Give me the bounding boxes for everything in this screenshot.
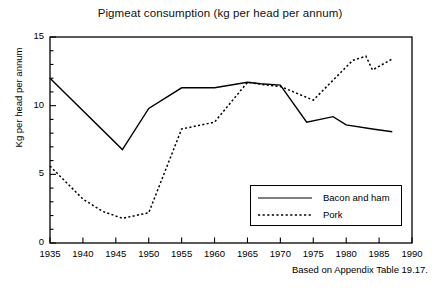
legend-solid-line-swatch bbox=[257, 193, 313, 203]
x-axis-tick-label: 1950 bbox=[132, 248, 166, 259]
x-axis-tick-label: 1990 bbox=[395, 248, 429, 259]
x-axis-tick-label: 1955 bbox=[165, 248, 199, 259]
legend-label-pork: Pork bbox=[323, 209, 343, 220]
x-axis-tick-label: 1965 bbox=[230, 248, 264, 259]
chart-legend: Bacon and ham Pork bbox=[250, 185, 402, 226]
x-axis-tick-label: 1980 bbox=[329, 248, 363, 259]
y-axis-tick-label: 5 bbox=[18, 167, 44, 178]
pigmeat-consumption-chart: Pigmeat consumption (kg per head per ann… bbox=[0, 0, 440, 293]
legend-label-bacon-and-ham: Bacon and ham bbox=[323, 192, 390, 203]
x-axis-tick-label: 1985 bbox=[362, 248, 396, 259]
legend-dotted-line-swatch bbox=[257, 210, 313, 220]
x-axis-tick-label: 1940 bbox=[66, 248, 100, 259]
legend-item-bacon-and-ham: Bacon and ham bbox=[257, 190, 390, 205]
y-axis-tick-label: 15 bbox=[18, 30, 44, 41]
source-note: Based on Appendix Table 19.17. bbox=[292, 264, 428, 275]
legend-item-pork: Pork bbox=[257, 207, 343, 222]
y-axis-tick-label: 0 bbox=[18, 236, 44, 247]
x-axis-tick-label: 1975 bbox=[296, 248, 330, 259]
x-axis-tick-label: 1970 bbox=[263, 248, 297, 259]
x-axis-tick-label: 1935 bbox=[33, 248, 67, 259]
y-axis-tick-label: 10 bbox=[18, 99, 44, 110]
x-axis-tick-label: 1960 bbox=[198, 248, 232, 259]
x-axis-tick-label: 1945 bbox=[99, 248, 133, 259]
